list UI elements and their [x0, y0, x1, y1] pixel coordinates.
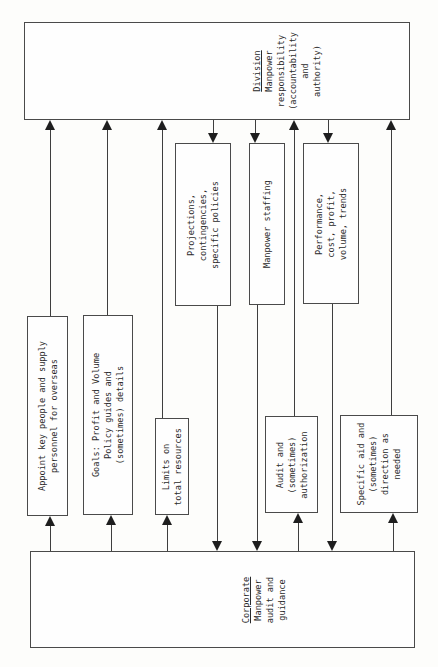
connector-line	[294, 130, 295, 416]
division-label: Division Manpower responsibility (accoun…	[251, 32, 323, 110]
connector-line	[167, 525, 168, 551]
connector-line	[50, 526, 51, 551]
connector-line	[50, 130, 51, 316]
arrow-up-icon	[45, 120, 55, 130]
arrow-up-icon	[102, 120, 112, 130]
corporate-title: Corporate	[240, 576, 252, 623]
arrow-up-icon	[45, 516, 55, 526]
connector-line	[213, 120, 214, 133]
flow-box-projections: Projections, contingencies, specific pol…	[175, 143, 231, 306]
division-title: Division	[251, 32, 263, 110]
flow-box-limits: Limits on total resources	[155, 418, 189, 515]
arrow-up-icon	[388, 513, 398, 523]
arrow-down-icon	[252, 541, 262, 551]
connector-line	[332, 304, 333, 541]
corporate-label: Corporate Manpower audit and guidance	[240, 576, 288, 623]
arrow-up-icon	[386, 120, 396, 130]
arrow-down-icon	[327, 541, 337, 551]
flow-box-audit: Audit and (sometimes) authorization	[265, 416, 318, 513]
arrow-up-icon	[162, 515, 172, 525]
connector-line	[393, 523, 394, 551]
connector-line	[328, 120, 329, 133]
arrow-up-icon	[289, 120, 299, 130]
connector-line	[298, 523, 299, 551]
flow-box-performance: Performance, cost, profit, volume, trend…	[303, 143, 359, 304]
arrow-up-icon	[293, 513, 303, 523]
connector-line	[257, 305, 258, 541]
arrow-down-icon	[250, 133, 260, 143]
connector-line	[162, 130, 163, 418]
corporate-box: Corporate Manpower audit and guidance	[30, 551, 415, 648]
arrow-down-icon	[323, 133, 333, 143]
arrow-down-icon	[208, 133, 218, 143]
arrow-down-icon	[212, 541, 222, 551]
connector-line	[111, 525, 112, 551]
arrow-up-icon	[106, 515, 116, 525]
connector-line	[217, 306, 218, 541]
arrow-up-icon	[157, 120, 167, 130]
connector-line	[391, 130, 392, 415]
division-box: Division Manpower responsibility (accoun…	[24, 22, 410, 120]
flow-box-goals: Goals: Profit and Volume Policy guides a…	[83, 315, 133, 515]
flow-box-specific-aid: Specific aid and (sometimes) direction a…	[340, 415, 418, 513]
connector-line	[255, 120, 256, 133]
flow-box-manpower-staffing: Manpower staffing	[249, 143, 285, 305]
flow-box-appoint-key-people: Appoint key people and supply personnel …	[27, 316, 68, 516]
connector-line	[107, 130, 108, 315]
